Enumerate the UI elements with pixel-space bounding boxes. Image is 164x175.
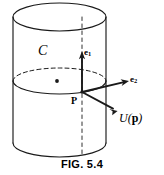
label-vector-field-u-of-p: U(p) — [119, 112, 142, 124]
label-e1: e1 — [84, 48, 91, 58]
label-e1-subscript: 1 — [88, 50, 91, 57]
label-curve-c: C — [38, 44, 47, 58]
figure-caption: FIG. 5.4 — [0, 158, 164, 170]
label-e2-subscript: 2 — [134, 77, 137, 84]
curve-c-center-dot — [55, 79, 59, 83]
label-e2: e2 — [130, 75, 137, 85]
label-u-suffix: ) — [138, 111, 142, 125]
point-p-marker — [80, 90, 83, 93]
label-point-p: P — [71, 96, 77, 106]
cylinder-diagram — [0, 0, 164, 175]
figure-container: C e1 e2 P U(p) FIG. 5.4 — [0, 0, 164, 175]
label-u-prefix: U( — [119, 111, 132, 125]
